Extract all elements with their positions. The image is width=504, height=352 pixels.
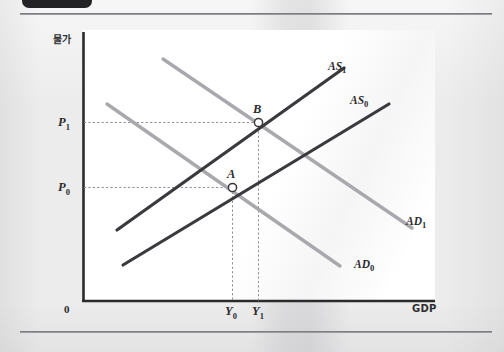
x-tick-y0-sub: 0 [233, 311, 237, 321]
point-label-a: A [227, 168, 235, 181]
x-tick-y1-text: Y [252, 304, 260, 318]
curve-label-ad0-text: AD [354, 258, 370, 270]
curve-label-ad1-text: AD [406, 215, 422, 227]
curve-ad0 [107, 104, 340, 266]
curve-as1 [117, 68, 344, 230]
divider-bottom [20, 331, 492, 333]
x-tick-y0-text: Y [225, 304, 233, 318]
curve-label-as0: AS0 [350, 95, 368, 109]
chart-svg [0, 16, 504, 330]
curve-label-as1-sub: 1 [342, 65, 346, 75]
y-tick-p0-text: P [58, 180, 66, 194]
figure-container: 물가 GDP 0 P1 P0 Y0 Y1 AS1 AS0 AD1 AD0 A B [0, 16, 504, 330]
x-tick-y1: Y1 [252, 305, 264, 320]
point-marker-a [228, 183, 236, 191]
y-tick-p1: P1 [58, 116, 70, 131]
x-axis-label: GDP [412, 304, 437, 314]
y-tick-p0: P0 [58, 181, 70, 196]
curve-label-ad0-sub: 0 [370, 263, 374, 273]
curve-ad1 [163, 59, 412, 228]
point-marker-b [254, 118, 262, 126]
y-tick-p0-sub: 0 [66, 187, 70, 197]
curve-label-ad1: AD1 [406, 216, 426, 230]
curve-label-as0-sub: 0 [364, 99, 368, 109]
x-tick-y1-sub: 1 [260, 311, 264, 321]
curve-label-ad1-sub: 1 [422, 220, 426, 230]
y-tick-p1-text: P [58, 115, 66, 129]
divider-top [20, 13, 492, 15]
curve-label-ad0: AD0 [354, 259, 374, 273]
y-axis-label: 물가 [53, 35, 71, 45]
curve-label-as0-text: AS [350, 94, 364, 106]
point-label-b: B [253, 103, 261, 116]
x-tick-y0: Y0 [225, 305, 237, 320]
y-tick-p1-sub: 1 [66, 122, 70, 132]
origin-label: 0 [64, 304, 70, 315]
curve-label-as1-text: AS [328, 60, 342, 72]
curve-label-as1: AS1 [328, 61, 346, 75]
page-corner-tab [22, 0, 92, 8]
